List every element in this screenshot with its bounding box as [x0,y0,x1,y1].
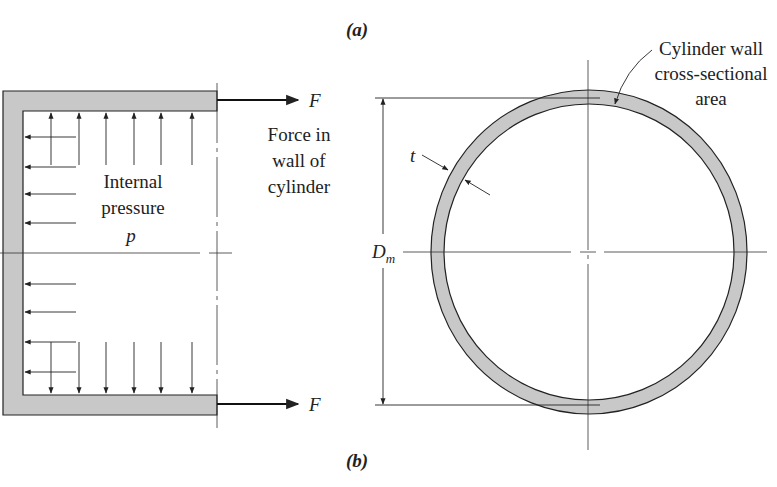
force-caption: Force in wall of cylinder [268,124,331,197]
svg-text:area: area [695,88,727,109]
wall-caption: Cylinder wall cross-sectional area [655,38,768,109]
svg-text:cross-sectional: cross-sectional [655,63,768,84]
cylinder-stress-diagram: (a) (b) F F Force in [0,0,777,487]
thickness-arrow-outer [422,155,448,170]
svg-text:cylinder: cylinder [268,176,331,197]
diameter-label: Dm [371,241,395,266]
force-label-top: F [308,90,321,111]
pressure-caption: Internal pressure p [101,171,164,246]
svg-text:Force in: Force in [268,124,331,145]
pressure-arrows-left [25,137,76,372]
svg-text:Cylinder wall: Cylinder wall [659,38,763,59]
figure-label-a: (a) [346,19,368,41]
thickness-arrow-inner [465,180,490,195]
svg-text:wall of: wall of [272,150,326,171]
force-label-bottom: F [308,394,321,415]
figure-label-b: (b) [346,450,368,472]
pressure-arrows-bottom [51,342,192,393]
svg-text:pressure: pressure [101,197,164,218]
pressure-arrows-top [51,113,192,165]
svg-text:Internal: Internal [103,171,162,192]
pressure-symbol: p [124,225,136,246]
thickness-label: t [410,145,416,166]
